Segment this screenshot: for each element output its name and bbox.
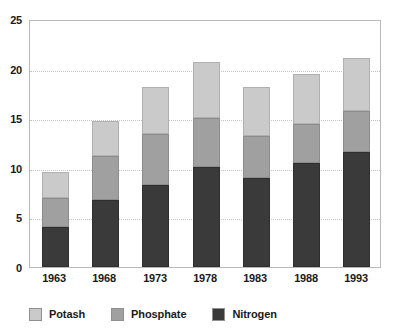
- x-axis: 1963196819731978198319881993: [29, 272, 381, 292]
- bar-group: [193, 19, 220, 267]
- x-tick-label: 1978: [193, 272, 217, 284]
- bar-segment-nitrogen: [343, 152, 370, 267]
- y-tick-label: 15: [10, 113, 22, 125]
- bar-segment-potash: [343, 58, 370, 112]
- legend-item-potash: Potash: [29, 308, 85, 321]
- bar-group: [42, 19, 69, 267]
- legend-swatch-icon: [212, 308, 225, 321]
- bar-segment-phosphate: [142, 134, 169, 185]
- bar-group: [142, 19, 169, 267]
- bar-segment-nitrogen: [42, 227, 69, 267]
- bar-segment-phosphate: [42, 198, 69, 228]
- bar-segment-potash: [243, 87, 270, 136]
- legend-swatch-icon: [29, 308, 42, 321]
- x-tick-label: 1968: [92, 272, 116, 284]
- bar-segment-potash: [142, 87, 169, 134]
- bar-segment-potash: [92, 121, 119, 156]
- y-tick-label: 25: [10, 14, 22, 26]
- y-tick-label: 0: [16, 262, 22, 274]
- bar-segment-nitrogen: [243, 178, 270, 267]
- bar-segment-phosphate: [293, 124, 320, 163]
- y-tick-label: 5: [16, 212, 22, 224]
- bar-group: [92, 19, 119, 267]
- y-tick-label: 20: [10, 64, 22, 76]
- legend-item-phosphate: Phosphate: [111, 308, 186, 321]
- bar-group: [293, 19, 320, 267]
- x-tick-label: 1988: [294, 272, 318, 284]
- legend-label: Potash: [49, 308, 85, 320]
- legend: PotashPhosphateNitrogen: [29, 303, 381, 325]
- bar-segment-nitrogen: [193, 167, 220, 267]
- legend-label: Phosphate: [131, 308, 186, 320]
- stacked-bar-chart: 0510152025 1963196819731978198319881993 …: [0, 0, 395, 332]
- legend-swatch-icon: [111, 308, 124, 321]
- bar-segment-nitrogen: [293, 163, 320, 267]
- x-tick-label: 1983: [243, 272, 267, 284]
- x-tick-label: 1973: [143, 272, 167, 284]
- bar-group: [343, 19, 370, 267]
- bar-segment-potash: [293, 74, 320, 125]
- bar-segment-phosphate: [92, 156, 119, 200]
- bar-segment-phosphate: [343, 111, 370, 152]
- bar-segment-phosphate: [243, 136, 270, 178]
- legend-label: Nitrogen: [232, 308, 276, 320]
- x-tick-label: 1963: [42, 272, 66, 284]
- y-tick-label: 10: [10, 163, 22, 175]
- x-tick-label: 1993: [344, 272, 368, 284]
- plot-area: [29, 20, 381, 268]
- bar-segment-nitrogen: [92, 200, 119, 267]
- bar-segment-nitrogen: [142, 185, 169, 267]
- bar-segment-phosphate: [193, 118, 220, 167]
- bar-segment-potash: [193, 62, 220, 119]
- legend-item-nitrogen: Nitrogen: [212, 308, 276, 321]
- y-axis: 0510152025: [0, 0, 29, 290]
- bar-segment-potash: [42, 172, 69, 198]
- bar-group: [243, 19, 270, 267]
